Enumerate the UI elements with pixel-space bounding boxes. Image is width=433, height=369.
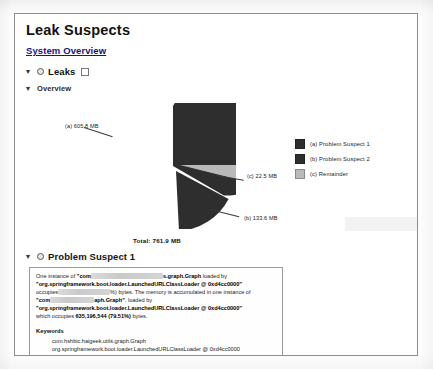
desc-com-token: "com <box>77 273 91 279</box>
keywords-heading: Keywords <box>36 328 276 334</box>
desc-line1-post: loaded by <box>201 273 227 279</box>
legend-label-c: (c) Remainder <box>310 171 348 177</box>
keywords-list: com.hshbic.haigeek.utils.graph.Graph org… <box>52 337 276 354</box>
redacted-text-1 <box>91 273 163 279</box>
legend-item-a[interactable]: (a) Problem Suspect 1 <box>295 139 370 149</box>
keyword-item: org.springframework.boot.loader.Launched… <box>52 345 276 353</box>
page-title: Leak Suspects <box>26 22 417 38</box>
pie-label-a: (a) 605.8 MB <box>65 123 99 129</box>
desc-class-tail: s.graph.Graph <box>163 273 201 279</box>
legend-item-c[interactable]: (c) Remainder <box>295 169 370 179</box>
desc-loader-2: "org.springframework.boot.loader.Launche… <box>36 305 242 311</box>
desc-loader-1: "org.springframework.boot.loader.Launche… <box>36 281 242 287</box>
legend-swatch-icon-a <box>295 139 305 149</box>
redacted-text-2 <box>58 289 110 295</box>
keyword-item: com.hshbic.haigeek.utils.graph.Graph <box>52 337 276 345</box>
legend-label-b: (b) Problem Suspect 2 <box>310 156 370 162</box>
desc-loaded-by: , loaded by <box>125 297 152 303</box>
pie-label-c: (c) 22.5 MB <box>247 173 277 179</box>
node-bullet-icon <box>37 68 44 75</box>
desc-class2-tail: aph.Graph" <box>94 297 125 303</box>
chevron-down-icon[interactable]: ▾ <box>26 68 33 76</box>
system-overview-link[interactable]: System Overview <box>26 45 106 56</box>
tree-node-overview[interactable]: ▾ Overview <box>26 84 417 93</box>
tree-node-overview-label: Overview <box>37 84 71 93</box>
tree-node-leaks-label: Leaks <box>48 66 75 77</box>
desc-final-post: bytes. <box>131 313 147 319</box>
chevron-down-icon[interactable]: ▾ <box>26 85 33 93</box>
tree-node-problem-suspect-1[interactable]: ▾ Problem Suspect 1 <box>26 251 417 262</box>
desc-pct-tail: %) bytes. The memory is accumulated in o… <box>110 289 250 295</box>
pie-chart <box>110 103 236 229</box>
redacted-text-3 <box>50 297 94 303</box>
desc-line1-pre: One instance of <box>36 273 77 279</box>
tree-node-suspect-label: Problem Suspect 1 <box>48 251 135 262</box>
suspect-detail-box: One instance of "coms.graph.Graph loaded… <box>29 267 283 356</box>
suspect-description: One instance of "coms.graph.Graph loaded… <box>36 273 276 321</box>
legend-swatch-icon-c <box>295 169 305 179</box>
node-bullet-icon <box>37 253 44 260</box>
leak-suspects-report: Leak Suspects System Overview ▾ Leaks ▾ … <box>14 13 418 356</box>
desc-final-pre: which occupies <box>36 313 76 319</box>
scan-watermark <box>345 217 418 231</box>
desc-occupies: occupies <box>36 289 58 295</box>
report-page: Leak Suspects System Overview ▾ Leaks ▾ … <box>0 0 433 369</box>
tree-node-leaks[interactable]: ▾ Leaks <box>26 66 417 77</box>
legend-label-a: (a) Problem Suspect 1 <box>310 141 370 147</box>
node-badge-icon <box>81 68 89 76</box>
desc-com-token-2: "com <box>36 297 50 303</box>
pie-total-label: Total: 761.9 MB <box>133 237 181 244</box>
legend-swatch-icon-b <box>295 154 305 164</box>
desc-final-value: 635,196,544 (79.51%) <box>76 313 131 319</box>
pie-label-b: (b) 133.6 MB <box>244 215 278 221</box>
chart-legend: (a) Problem Suspect 1 (b) Problem Suspec… <box>295 139 370 179</box>
legend-item-b[interactable]: (b) Problem Suspect 2 <box>295 154 370 164</box>
chevron-down-icon[interactable]: ▾ <box>26 253 33 261</box>
